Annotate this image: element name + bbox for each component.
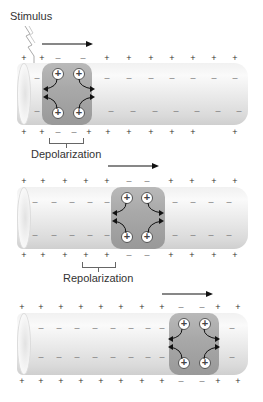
charge-sign: + [138,303,146,312]
charge-sign: + [231,251,239,260]
charge-sign: – [228,324,236,333]
charge-sign: + [189,128,197,137]
axon-tube-3: – – – – – – – – – – – – – – – – + + + + … [17,313,248,375]
charge-sign: + [39,251,47,260]
charge-sign: – [143,177,151,186]
charge-sign: + [103,251,111,260]
charge-sign: + [18,377,26,386]
charge-sign: + [214,303,222,312]
charge-sign: + [97,303,105,312]
charge-sign: – [225,231,233,240]
charge-sign: + [168,54,176,63]
charge-sign: + [38,128,46,137]
charge-sign: + [18,303,26,312]
charge-sign: + [234,303,242,312]
charge-sign: – [225,198,233,207]
charge-sign: + [210,251,218,260]
charge-sign: – [125,74,133,83]
charge-sign: – [91,324,99,333]
charge-sign: + [103,54,111,63]
charge-sign: + [125,54,133,63]
charge-sign: + [210,177,218,186]
charge-sign: – [235,107,243,116]
charge-sign: + [231,128,239,137]
charge-sign: + [82,177,90,186]
charge-sign: – [73,353,81,362]
charge-sign: + [147,128,155,137]
charge-sign: – [171,231,179,240]
charge-sign: + [188,177,196,186]
charge-sign: – [86,231,94,240]
charge-sign: – [172,107,180,116]
charge-sign: – [207,198,215,207]
charge-sign: + [138,377,146,386]
stimulus-label: Stimulus [10,10,52,22]
charge-sign: + [103,177,111,186]
charge-sign: + [37,303,45,312]
charge-sign: – [55,353,63,362]
charge-sign: – [91,353,99,362]
charge-sign: + [20,177,28,186]
charge-sign: – [143,251,151,260]
charge-sign: – [168,74,176,83]
charge-sign: + [104,128,112,137]
charge-sign: + [20,128,28,137]
charge-sign: + [125,128,133,137]
charge-sign: + [97,377,105,386]
charge-sign: – [70,128,78,137]
charge-sign: + [231,177,239,186]
charge-sign: – [158,324,166,333]
charge-sign: + [234,377,242,386]
charge-sign: – [177,303,185,312]
charge-sign: – [31,198,39,207]
charge-sign: – [144,324,152,333]
charge-sign: – [109,324,117,333]
charge-sign: + [20,54,28,63]
direction-arrow-1 [42,40,94,48]
charge-sign: + [82,251,90,260]
charge-sign: – [73,324,81,333]
charge-sign: – [210,74,218,83]
axon-end [17,63,31,125]
charge-sign: – [55,324,63,333]
charge-sign: + [57,377,65,386]
charge-sign: + [214,377,222,386]
charge-sign: + [167,251,175,260]
current-flow-arrows [168,329,222,361]
charge-sign: – [50,231,58,240]
charge-sign: – [198,377,206,386]
charge-sign: – [144,353,152,362]
charge-sign: – [109,353,117,362]
repolarization-label: Repolarization [63,272,133,284]
charge-sign: – [107,107,115,116]
current-flow-arrows [43,79,97,111]
charge-sign: – [50,198,58,207]
charge-sign: + [158,303,166,312]
charge-sign: – [86,198,94,207]
charge-sign: – [125,251,133,260]
charge-sign: + [231,54,239,63]
charge-sign: – [37,324,45,333]
axon-end [17,313,31,375]
charge-sign: + [61,251,69,260]
charge-sign: – [129,107,137,116]
charge-sign: + [39,177,47,186]
charge-sign: – [37,353,45,362]
charge-sign: – [103,231,111,240]
charge-sign: + [57,303,65,312]
direction-arrow-3 [162,290,214,298]
charge-sign: – [68,198,76,207]
charge-sign: – [127,324,135,333]
charge-sign: – [171,198,179,207]
repolarization-bracket [82,262,116,268]
charge-sign: – [177,377,185,386]
charge-sign: + [37,377,45,386]
charge-sign: + [38,54,46,63]
charge-sign: – [31,231,39,240]
charge-sign: + [188,251,196,260]
charge-sign: – [198,303,206,312]
charge-sign: + [167,177,175,186]
charge-sign: + [117,303,125,312]
charge-sign: – [158,353,166,362]
charge-sign: – [33,107,41,116]
